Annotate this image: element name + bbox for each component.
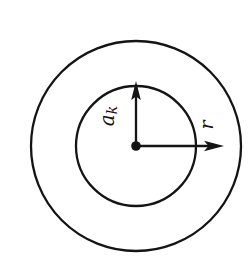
label-a-k-base: a (95, 114, 119, 126)
label-r: r (197, 105, 219, 145)
label-a-k: ak (97, 93, 121, 139)
label-a-k-subscript: k (104, 106, 120, 114)
figure-root: ak r (0, 0, 252, 278)
center-dot (131, 141, 141, 151)
